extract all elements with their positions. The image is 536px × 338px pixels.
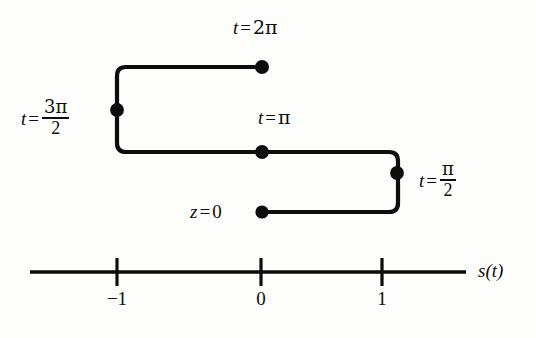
axis-label-s-of-t-text: s(t) <box>478 260 503 281</box>
fraction-pi-over-2-denominator: 2 <box>442 181 455 200</box>
label-t-equals-2pi-eq: = <box>238 17 253 38</box>
label-t-equals-pi-over-2: t=π2 <box>419 161 456 201</box>
label-t-equals-2pi: t=2π <box>233 18 278 37</box>
serpentine-path <box>117 67 398 212</box>
label-t-equals-3pi-over-2: t=3π2 <box>21 99 69 139</box>
point-t-equals-pi <box>255 145 269 159</box>
point-t-equals-pi-over-2 <box>390 166 404 180</box>
label-z-equals-0: z=0 <box>190 202 222 221</box>
label-t-equals-pi-eq: = <box>263 107 278 128</box>
fraction-3pi-over-2-numerator: 3π <box>42 98 69 116</box>
axis-tick-label-1: 1 <box>377 288 387 310</box>
axis-label-s-of-t: s(t) <box>478 261 503 280</box>
fraction-3pi-over-2: 3π2 <box>42 98 69 138</box>
axis-tick-label-minus-1: −1 <box>107 288 127 310</box>
label-t-equals-pi: t=π <box>258 108 291 127</box>
label-t-equals-3pi-over-2-eq: = <box>26 109 41 128</box>
axis-tick-label-0: 0 <box>256 288 266 310</box>
label-z-equals-0-eq: = <box>197 201 212 222</box>
math-figure: t=2π t=3π2 t=π t=π2 z=0 s(t) −1 0 1 <box>0 0 536 338</box>
point-t-equals-2pi <box>255 60 269 74</box>
point-z-equals-0 <box>255 205 268 218</box>
fraction-3pi-over-2-denominator: 2 <box>49 119 62 138</box>
point-t-equals-3pi-over-2 <box>110 103 124 117</box>
fraction-pi-over-2-numerator: π <box>440 160 456 178</box>
label-t-equals-pi-over-2-eq: = <box>424 171 439 190</box>
fraction-pi-over-2: π2 <box>440 160 456 200</box>
label-t-equals-2pi-value: 2π <box>253 16 278 38</box>
label-t-equals-pi-value: π <box>278 106 291 128</box>
label-z-equals-0-value: 0 <box>212 201 222 222</box>
